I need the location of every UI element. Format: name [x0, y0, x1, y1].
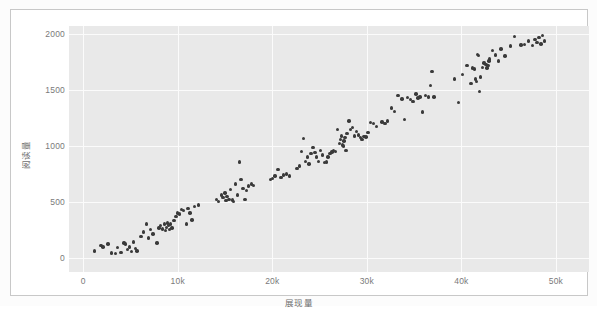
x-tick-label: 0	[81, 276, 86, 286]
x-axis-ticks: 010k20k30k40k50k	[11, 10, 597, 312]
x-tick-label: 50k	[549, 276, 563, 286]
x-tick-label: 30k	[360, 276, 374, 286]
x-tick-label: 10k	[171, 276, 185, 286]
x-axis-title: 展现量	[11, 296, 587, 308]
x-tick-label: 20k	[265, 276, 279, 286]
y-axis-title: 阅读量	[19, 125, 31, 185]
chart-card: 0500100015002000 010k20k30k40k50k 展现量 阅读…	[10, 9, 588, 296]
x-tick-label: 40k	[454, 276, 468, 286]
